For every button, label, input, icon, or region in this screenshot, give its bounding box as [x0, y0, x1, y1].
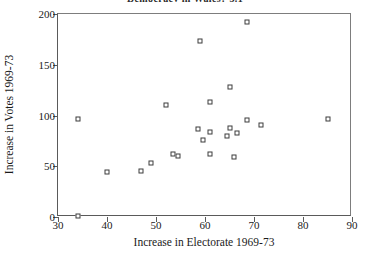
data-point [163, 103, 168, 108]
x-tick-label: 70 [249, 220, 260, 231]
y-tick-label: 150 [39, 59, 56, 70]
plot-area: 050100150200 30405060708090 [57, 13, 351, 216]
data-point [75, 116, 80, 121]
x-tick-label: 60 [200, 220, 211, 231]
data-point [207, 100, 212, 105]
data-point [234, 130, 239, 135]
data-point [75, 213, 80, 218]
data-point [259, 122, 264, 127]
data-point [198, 39, 203, 44]
chart-title: Democracy in Wales? 3.1 [0, 0, 370, 2]
y-tick-label: 100 [39, 110, 56, 121]
data-point [200, 137, 205, 142]
data-point [325, 116, 330, 121]
data-point [149, 161, 154, 166]
x-tick-label: 90 [347, 220, 358, 231]
x-tick-label: 80 [298, 220, 309, 231]
data-point [195, 126, 200, 131]
data-point [244, 117, 249, 122]
x-tick-label: 30 [53, 220, 64, 231]
data-point [244, 20, 249, 25]
y-tick-label: 50 [44, 161, 55, 172]
scatter-plot-figure: Democracy in Wales? 3.1 Increase in Vote… [0, 0, 370, 254]
data-point [227, 125, 232, 130]
data-point [232, 155, 237, 160]
y-tick-label: 200 [39, 9, 56, 20]
data-point [207, 129, 212, 134]
x-tick-label: 40 [102, 220, 113, 231]
data-point [176, 154, 181, 159]
y-axis-title: Increase in Votes 1969-73 [2, 13, 16, 216]
data-point [139, 169, 144, 174]
x-tick-label: 50 [151, 220, 162, 231]
x-axis-title: Increase in Electorate 1969-73 [57, 236, 351, 249]
data-point [207, 152, 212, 157]
data-point [105, 170, 110, 175]
data-point [225, 133, 230, 138]
data-point [227, 85, 232, 90]
